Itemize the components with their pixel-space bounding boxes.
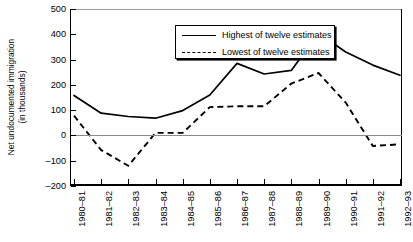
y-axis-title-line-2: (in thousands)	[17, 70, 27, 123]
y-tick-label: 0	[32, 130, 66, 140]
x-tick-mark	[319, 179, 320, 184]
y-axis-title-line-1: Net undocumented immigration	[6, 39, 16, 155]
x-tick-mark	[128, 179, 129, 184]
legend-swatch-dashed-icon	[182, 48, 216, 56]
x-tick-label: 1992–93	[403, 191, 413, 227]
legend-item-lowest: Lowest of twelve estimates	[176, 43, 334, 60]
y-tick-label: 400	[32, 29, 66, 39]
legend-item-highest: Highest of twelve estimates	[176, 26, 334, 43]
zero-reference-line	[71, 135, 402, 136]
x-tick-label: 1990–91	[349, 191, 359, 227]
y-tick-label: –200	[32, 181, 66, 191]
legend-label-highest: Highest of twelve estimates	[222, 30, 332, 40]
x-tick-label: 1983–84	[159, 191, 169, 227]
y-tick-label: –100	[32, 156, 66, 166]
x-tick-mark	[291, 179, 292, 184]
x-tick-mark	[183, 179, 184, 184]
y-tick-mark	[71, 60, 76, 61]
x-tick-mark	[400, 179, 401, 184]
y-tick-mark	[71, 135, 76, 136]
x-tick-mark	[373, 179, 374, 184]
x-tick-mark	[346, 179, 347, 184]
x-tick-label: 1987–88	[267, 191, 277, 227]
x-tick-mark	[210, 179, 211, 184]
plot-area: Highest of twelve estimates Lowest of tw…	[70, 9, 402, 186]
plot-right-edge	[401, 9, 402, 184]
x-tick-label: 1984–85	[186, 191, 196, 227]
x-tick-label: 1988–89	[294, 191, 304, 227]
x-tick-mark	[156, 179, 157, 184]
x-tick-mark	[237, 179, 238, 184]
x-tick-label: 1986–87	[240, 191, 250, 227]
y-axis-title: Net undocumented immigration (in thousan…	[0, 0, 34, 195]
y-tick-label: 100	[32, 105, 66, 115]
legend-label-lowest: Lowest of twelve estimates	[222, 47, 330, 57]
x-tick-mark	[74, 179, 75, 184]
y-tick-mark	[71, 186, 76, 187]
chart-legend: Highest of twelve estimates Lowest of tw…	[175, 25, 335, 59]
x-tick-label: 1982–83	[131, 191, 141, 227]
y-tick-mark	[71, 34, 76, 35]
x-tick-label: 1991–92	[376, 191, 386, 227]
y-tick-label: 200	[32, 80, 66, 90]
y-tick-mark	[71, 161, 76, 162]
y-tick-mark	[71, 9, 76, 10]
series-line-lowest	[74, 73, 400, 166]
x-tick-label: 1981–82	[104, 191, 114, 227]
x-tick-label: 1989–90	[322, 191, 332, 227]
y-tick-label: 300	[32, 55, 66, 65]
x-tick-label: 1980–81	[77, 191, 87, 227]
plot-top-rule	[71, 9, 402, 10]
legend-swatch-solid-icon	[182, 31, 216, 39]
y-tick-label: 500	[32, 4, 66, 14]
x-tick-mark	[264, 179, 265, 184]
y-tick-mark	[71, 85, 76, 86]
y-tick-mark	[71, 110, 76, 111]
x-tick-label: 1985–86	[213, 191, 223, 227]
x-tick-mark	[101, 179, 102, 184]
